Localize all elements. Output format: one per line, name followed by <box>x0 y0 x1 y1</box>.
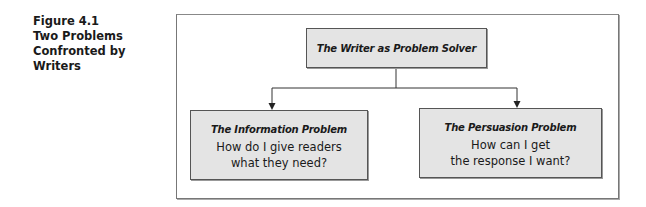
node-persuasion-problem: The Persuasion Problem How can I get the… <box>419 108 602 178</box>
node-information-problem: The Information Problem How do I give re… <box>190 110 368 180</box>
arrowhead-icon <box>269 103 276 110</box>
node-question-line: what they need? <box>191 155 367 171</box>
node-question: How can I get the response I want? <box>420 137 601 169</box>
node-title: The Persuasion Problem <box>420 122 601 133</box>
root-node-title: The Writer as Problem Solver <box>317 43 476 54</box>
node-question-line: How can I get <box>420 137 601 153</box>
arrowhead-icon <box>514 101 521 108</box>
node-question: How do I give readers what they need? <box>191 139 367 171</box>
node-question-line: How do I give readers <box>191 139 367 155</box>
root-node-writer-as-problem-solver: The Writer as Problem Solver <box>306 28 487 68</box>
node-question-line: the response I want? <box>420 153 601 169</box>
node-title: The Information Problem <box>191 124 367 135</box>
